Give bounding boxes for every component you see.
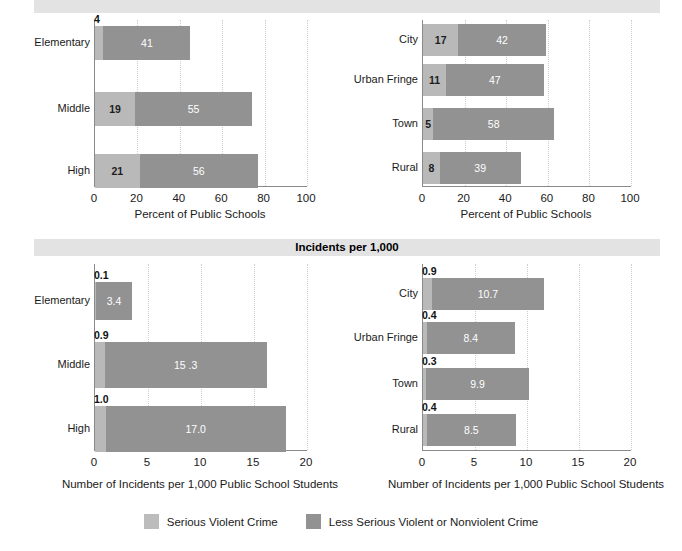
bar-row: 558 bbox=[423, 108, 631, 140]
x-tick-label: 80 bbox=[257, 192, 270, 204]
bar-segment-less-serious-violent-or-nonviolent-crime: 58 bbox=[433, 108, 554, 140]
x-tick-label: 10 bbox=[520, 456, 533, 468]
x-tick-label: 80 bbox=[582, 192, 595, 204]
bar-row: 8.5 bbox=[423, 414, 631, 446]
top-band-title bbox=[34, 0, 660, 13]
category-label-town: Town bbox=[336, 377, 418, 390]
bar-segment-serious-violent-crime: 5 bbox=[423, 108, 433, 140]
mid-title-band: Incidents per 1,000 bbox=[34, 239, 660, 256]
bar-value-label: 15 .3 bbox=[174, 359, 197, 371]
x-tick-label: 20 bbox=[130, 192, 143, 204]
bar-value-label: 19 bbox=[109, 103, 121, 115]
bar-value-label-outside: 1.0 bbox=[94, 393, 109, 405]
bar-segment-serious-violent-crime: 21 bbox=[95, 154, 140, 188]
x-tick-label: 15 bbox=[572, 456, 585, 468]
bar-segment-serious-violent-crime bbox=[95, 26, 103, 60]
bar-segment-less-serious-violent-or-nonviolent-crime: 47 bbox=[446, 64, 544, 96]
mid-band-title: Incidents per 1,000 bbox=[34, 239, 660, 256]
bar-value-label: 55 bbox=[188, 103, 200, 115]
bar-value-label-outside: 4 bbox=[94, 13, 100, 25]
bar-segment-less-serious-violent-or-nonviolent-crime: 55 bbox=[135, 92, 252, 126]
bar-row: 1955 bbox=[95, 92, 307, 126]
bar-value-label: 11 bbox=[429, 74, 440, 86]
bar-segment-less-serious-violent-or-nonviolent-crime: 42 bbox=[458, 24, 545, 56]
bar-value-label: 17 bbox=[435, 34, 447, 46]
bar-row: 1742 bbox=[423, 24, 631, 56]
figure-root: { "figure": { "bands": { "top_title": ""… bbox=[0, 0, 682, 551]
category-label-urban-fringe: Urban Fringe bbox=[336, 73, 418, 86]
bar-segment-less-serious-violent-or-nonviolent-crime: 8.4 bbox=[427, 322, 514, 354]
category-label-urban-fringe: Urban Fringe bbox=[336, 331, 418, 344]
bar-value-label: 58 bbox=[488, 118, 500, 130]
bar-segment-serious-violent-crime: 19 bbox=[95, 92, 135, 126]
category-label-high: High bbox=[8, 164, 90, 177]
bar-row: 15 .3 bbox=[95, 342, 307, 388]
plot-area-incidents-by-school-level: 0.13.40.915 .31.017.0 bbox=[94, 264, 307, 451]
x-tick-label: 0 bbox=[419, 192, 425, 204]
category-label-city: City bbox=[336, 33, 418, 46]
bar-value-label: 21 bbox=[111, 165, 123, 177]
x-tick-label: 20 bbox=[300, 456, 313, 468]
legend-label-serious: Serious Violent Crime bbox=[167, 516, 278, 528]
bar-value-label: 10.7 bbox=[478, 288, 498, 300]
bar-value-label: 8 bbox=[428, 162, 434, 174]
bar-value-label: 8.5 bbox=[464, 424, 479, 436]
bar-row: 1147 bbox=[423, 64, 631, 96]
x-tick-label: 40 bbox=[172, 192, 185, 204]
gridline-100 bbox=[307, 20, 308, 186]
x-tick-label: 100 bbox=[620, 192, 639, 204]
bar-row: 3.4 bbox=[95, 282, 307, 320]
category-label-elementary: Elementary bbox=[8, 36, 90, 49]
x-tick-label: 0 bbox=[419, 456, 425, 468]
gridline-20 bbox=[307, 264, 308, 450]
bar-segment-serious-violent-crime: 8 bbox=[423, 152, 440, 184]
bar-value-label-outside: 0.1 bbox=[94, 269, 109, 281]
x-axis-title: Percent of Public Schools bbox=[134, 208, 265, 220]
chart-legend: Serious Violent CrimeLess Serious Violen… bbox=[0, 514, 682, 529]
bar-row: 17.0 bbox=[95, 406, 307, 452]
bar-segment-less-serious-violent-or-nonviolent-crime: 56 bbox=[140, 154, 259, 188]
legend-swatch-less_serious bbox=[306, 514, 321, 529]
legend-item-less_serious: Less Serious Violent or Nonviolent Crime bbox=[306, 514, 538, 529]
bar-row: 2156 bbox=[95, 154, 307, 188]
x-axis-title: Number of Incidents per 1,000 Public Sch… bbox=[62, 478, 338, 490]
plot-area-incidents-by-urbanicity: 0.910.70.48.40.39.90.48.5 bbox=[422, 264, 631, 451]
bar-value-label: 47 bbox=[489, 74, 501, 86]
plot-area-percent-by-urbanicity: 17421147558839 bbox=[422, 20, 631, 187]
bar-segment-serious-violent-crime: 11 bbox=[423, 64, 446, 96]
x-tick-label: 20 bbox=[457, 192, 470, 204]
bar-value-label: 41 bbox=[141, 37, 153, 49]
bar-segment-less-serious-violent-or-nonviolent-crime: 10.7 bbox=[432, 278, 543, 310]
x-tick-label: 0 bbox=[91, 192, 97, 204]
bar-value-label-outside: 0.3 bbox=[422, 355, 437, 367]
bar-segment-serious-violent-crime bbox=[95, 406, 106, 452]
category-label-rural: Rural bbox=[336, 423, 418, 436]
x-tick-label: 5 bbox=[471, 456, 477, 468]
x-tick-label: 100 bbox=[296, 192, 315, 204]
category-label-middle: Middle bbox=[8, 102, 90, 115]
category-label-town: Town bbox=[336, 117, 418, 130]
bar-segment-less-serious-violent-or-nonviolent-crime: 15 .3 bbox=[105, 342, 267, 388]
x-tick-label: 10 bbox=[194, 456, 207, 468]
bar-row: 41 bbox=[95, 26, 307, 60]
gridline-20 bbox=[631, 264, 632, 450]
bar-segment-less-serious-violent-or-nonviolent-crime: 17.0 bbox=[106, 406, 286, 452]
bar-segment-less-serious-violent-or-nonviolent-crime: 39 bbox=[440, 152, 521, 184]
bar-value-label: 42 bbox=[496, 34, 508, 46]
bar-segment-serious-violent-crime bbox=[95, 342, 105, 388]
bar-row: 10.7 bbox=[423, 278, 631, 310]
bar-row: 8.4 bbox=[423, 322, 631, 354]
bar-segment-less-serious-violent-or-nonviolent-crime: 41 bbox=[103, 26, 190, 60]
bar-value-label: 5 bbox=[425, 118, 431, 130]
bar-segment-less-serious-violent-or-nonviolent-crime: 8.5 bbox=[427, 414, 515, 446]
bar-value-label: 3.4 bbox=[107, 295, 122, 307]
legend-swatch-serious bbox=[144, 514, 159, 529]
bar-value-label-outside: 0.9 bbox=[94, 329, 109, 341]
x-axis-title: Number of Incidents per 1,000 Public Sch… bbox=[388, 478, 664, 490]
gridline-100 bbox=[631, 20, 632, 186]
x-tick-label: 5 bbox=[144, 456, 150, 468]
bar-value-label: 8.4 bbox=[464, 332, 479, 344]
x-tick-label: 60 bbox=[540, 192, 553, 204]
bar-value-label-outside: 0.4 bbox=[422, 401, 437, 413]
top-title-band bbox=[34, 0, 660, 13]
